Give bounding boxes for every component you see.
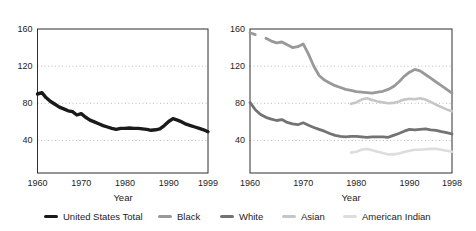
left-ytick-160: 160: [5, 24, 33, 34]
left-xtick-1990: 1990: [154, 178, 184, 188]
legend-item-american-indian: American Indian: [343, 209, 431, 224]
left-xtick-1980: 1980: [110, 178, 140, 188]
right-xtick-1960: 1960: [235, 178, 265, 188]
left-xtick-1970: 1970: [66, 178, 96, 188]
left-xaxis-title: Year: [103, 192, 143, 203]
right-xtick-1980: 1980: [341, 178, 371, 188]
legend-item-asian: Asian: [282, 209, 325, 224]
legend: United States TotalBlackWhiteAsianAmeric…: [0, 209, 476, 225]
right-ytick-40: 40: [217, 135, 245, 145]
legend-swatch-asian: [282, 215, 296, 218]
legend-label-american-indian: American Indian: [362, 211, 431, 222]
left-ytick-40: 40: [5, 135, 33, 145]
series-line-white: [250, 102, 452, 137]
charts-canvas: [0, 0, 476, 231]
left-ytick-120: 120: [5, 61, 33, 71]
right-ytick-160: 160: [217, 24, 245, 34]
series-line-black: [266, 38, 452, 93]
right-xtick-1998: 1998: [437, 178, 467, 188]
legend-swatch-white: [220, 215, 234, 218]
legend-label-asian: Asian: [301, 211, 325, 222]
series-line-american-indian: [351, 149, 452, 155]
right-ytick-120: 120: [217, 61, 245, 71]
right-xtick-1990: 1990: [394, 178, 424, 188]
left-ytick-80: 80: [5, 98, 33, 108]
right-ytick-80: 80: [217, 98, 245, 108]
right-xaxis-title: Year: [331, 192, 371, 203]
legend-label-white: White: [239, 211, 263, 222]
legend-swatch-american-indian: [343, 215, 357, 218]
series-line-black: [250, 33, 255, 35]
legend-item-white: White: [220, 209, 263, 224]
legend-item-united-states-total: United States Total: [44, 209, 143, 224]
legend-label-black: Black: [177, 211, 200, 222]
series-line-asian: [351, 98, 452, 111]
right-xtick-1970: 1970: [288, 178, 318, 188]
legend-swatch-united-states-total: [44, 215, 58, 219]
legend-item-black: Black: [158, 209, 200, 224]
dual-line-chart-figure: 1601208040196019701980199019991601208040…: [0, 0, 476, 231]
legend-label-united-states-total: United States Total: [63, 211, 143, 222]
series-line-united-states-total: [38, 93, 209, 132]
left-xtick-1999: 1999: [193, 178, 223, 188]
legend-swatch-black: [158, 215, 172, 218]
left-plot-box: [38, 29, 209, 173]
left-xtick-1960: 1960: [23, 178, 53, 188]
